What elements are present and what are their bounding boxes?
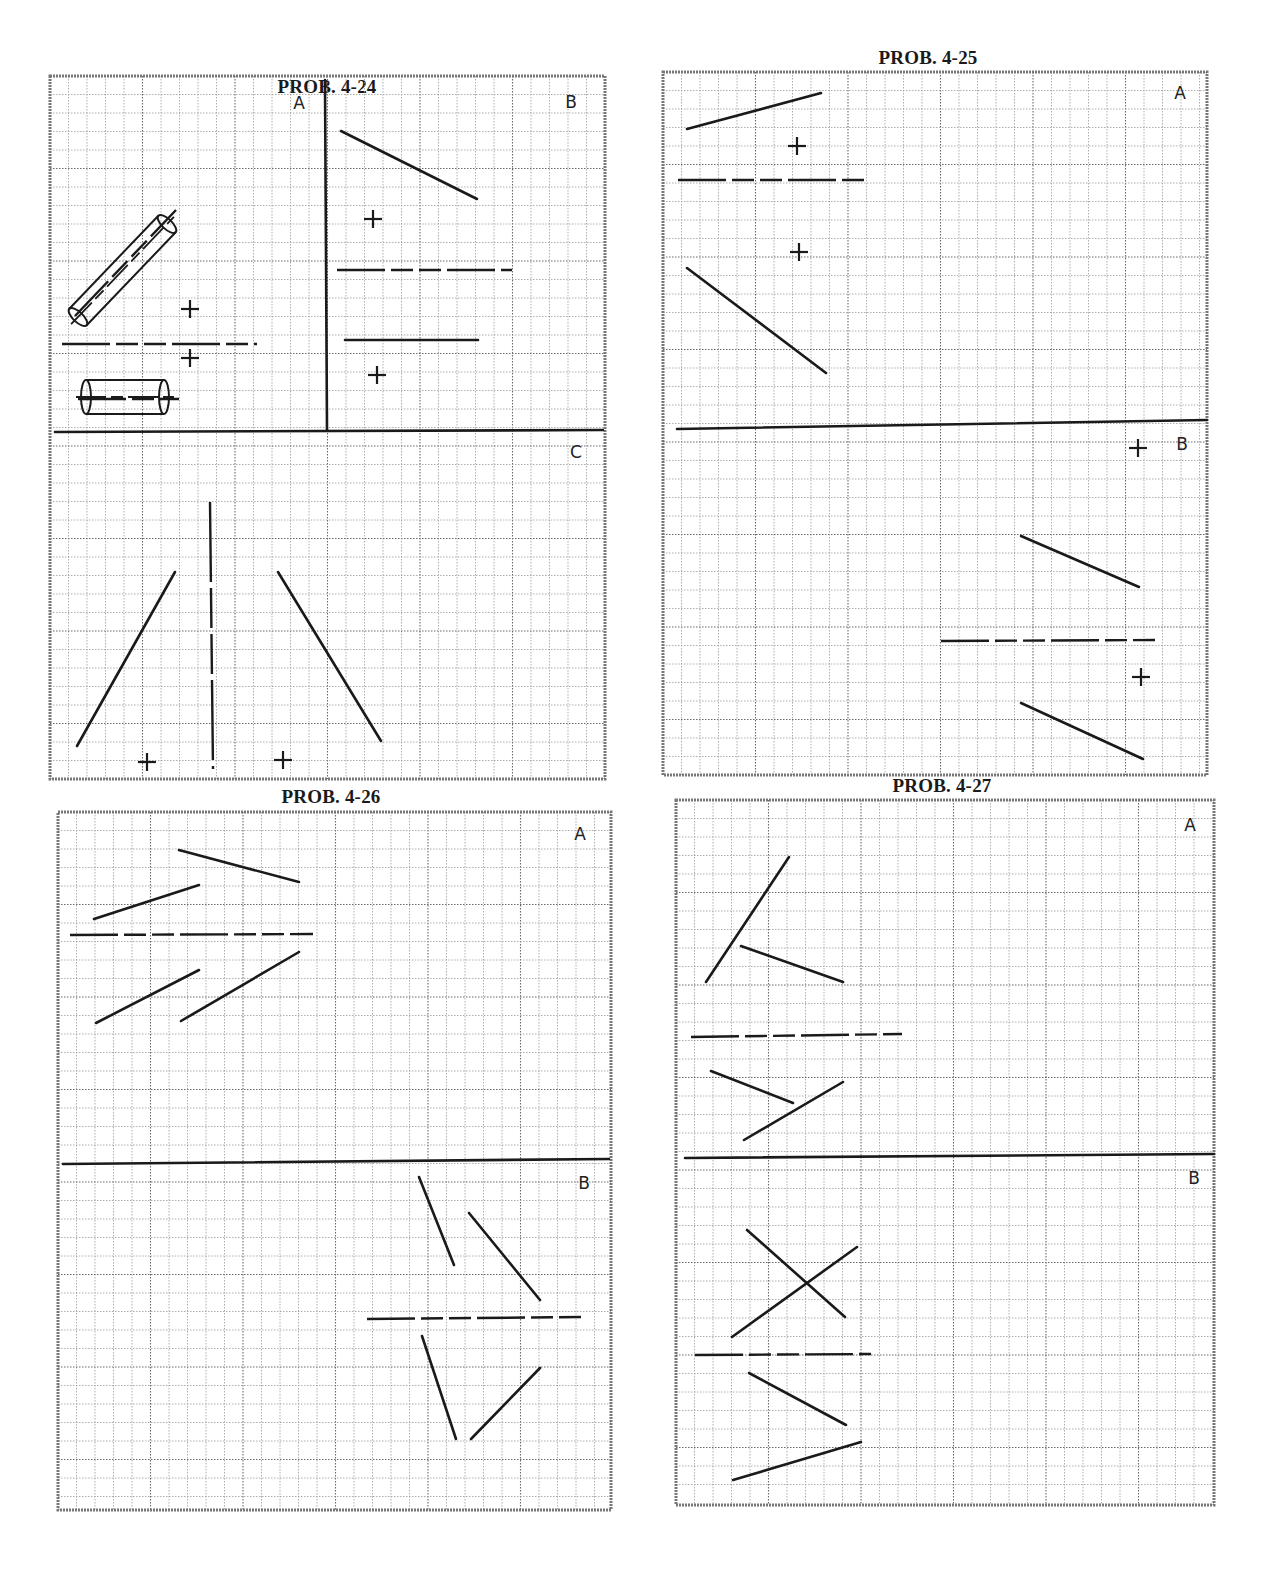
cylinder-shape [62,208,182,332]
view-label: A [1184,815,1196,835]
line-segment [687,268,826,373]
drawing-4-27: AB [685,815,1214,1480]
view-label: A [1174,83,1186,103]
line-segment [1021,536,1139,587]
line-segment [422,1336,456,1439]
line-segment [685,1154,1214,1158]
line-segment [741,946,843,982]
line-segment [1021,703,1143,759]
center-line-dashed [70,934,313,935]
line-segment [181,952,299,1021]
line-segment [77,572,175,746]
center-line-dashed [691,1034,902,1037]
line-segment [469,1213,540,1300]
view-label: B [1176,434,1188,454]
line-segment [749,1373,846,1425]
view-label: C [570,442,582,462]
line-segment [278,572,381,741]
drawing-4-25: AB [677,83,1207,759]
line-segment [96,970,199,1023]
center-line-dashed [695,1354,871,1355]
line-segment [341,131,477,199]
center-line-dashed [941,640,1160,641]
drawing-canvas: ABC AB AB AB [0,0,1288,1596]
cylinder-axis [71,217,174,324]
center-line-dashed [210,502,213,769]
line-segment [687,93,821,129]
view-label: B [1188,1168,1200,1188]
view-label: B [565,92,577,112]
line-segment [419,1177,454,1265]
view-label: A [574,824,586,844]
line-segment [677,420,1207,429]
line-segment [179,850,299,882]
line-segment [706,857,789,982]
center-line-dashed [367,1317,583,1319]
line-segment [325,80,327,430]
line-segment [55,430,603,432]
line-segment [711,1071,793,1103]
view-label: B [578,1173,590,1193]
drawing-4-24: ABC [55,80,603,771]
line-segment [732,1247,857,1337]
line-segment [94,885,199,919]
line-segment [747,1230,845,1317]
view-label: A [293,93,305,113]
line-segment [471,1368,540,1439]
